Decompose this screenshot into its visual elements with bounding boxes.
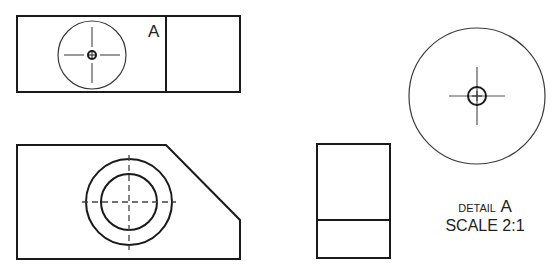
detail-caption: DETAIL A SCALE 2:1 — [430, 198, 540, 235]
right-side-view — [317, 144, 390, 258]
scale-label: SCALE 2:1 — [430, 217, 540, 235]
top-view — [17, 16, 240, 92]
front-view-outline — [17, 145, 240, 259]
outer-circle — [86, 159, 172, 245]
side-view-outline — [317, 144, 390, 258]
top-view-outline — [17, 16, 240, 92]
inner-circle — [101, 174, 157, 230]
detail-prefix: DETAIL — [458, 202, 496, 214]
detail-view — [409, 28, 545, 164]
detail-letter: A — [500, 197, 511, 216]
detail-marker-label: A — [148, 22, 159, 42]
front-view — [17, 145, 240, 259]
